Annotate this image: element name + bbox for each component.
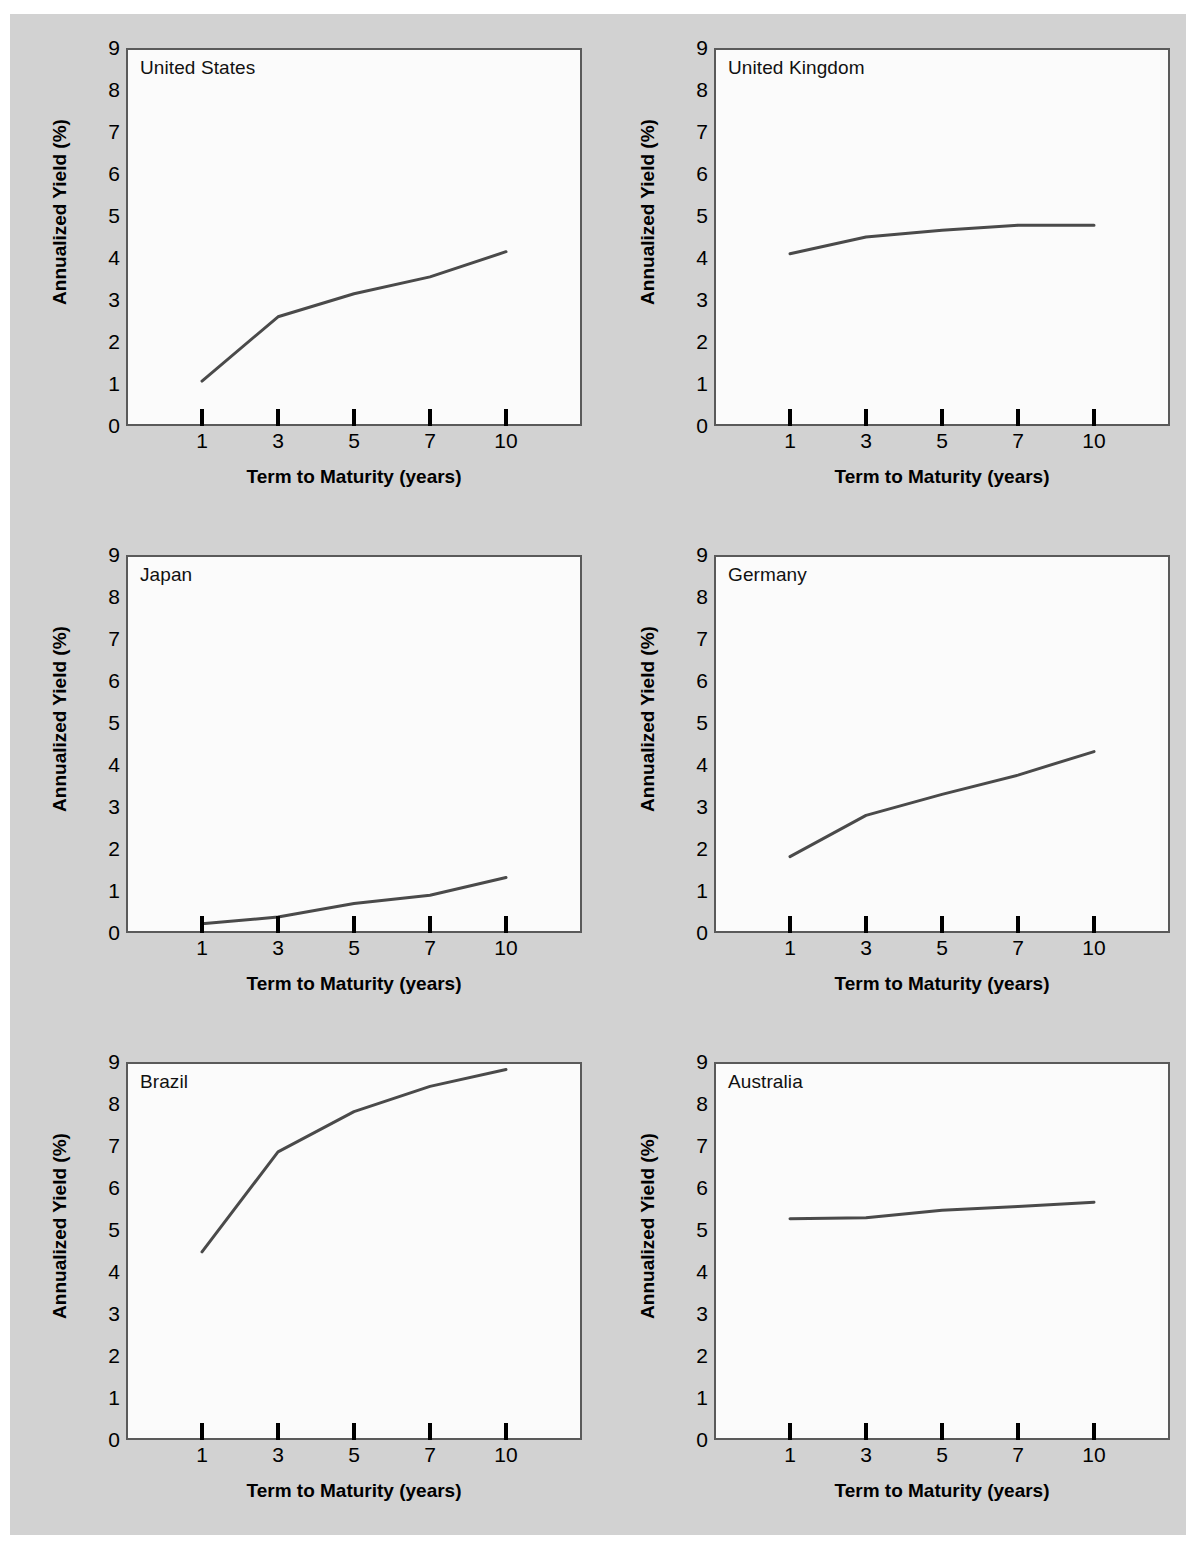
y-tick-label: 8 [86,1092,120,1116]
y-tick-label: 0 [674,921,708,945]
x-tick-label: 3 [272,429,284,453]
y-tick-labels: 0123456789 [660,1062,708,1440]
x-tick-label: 10 [1082,936,1105,960]
chart-panel-united-states: Annualized Yield (%)0123456789United Sta… [10,14,598,521]
x-tick-labels: 135710 [714,936,1170,966]
y-tick-label: 2 [86,837,120,861]
x-tick-label: 3 [860,936,872,960]
x-tick-label: 5 [936,936,948,960]
x-tick-marks [714,48,1170,426]
y-tick-label: 3 [674,795,708,819]
y-tick-label: 3 [86,288,120,312]
x-tick-mark [1092,409,1096,426]
x-tick-mark [864,1423,868,1440]
x-tick-label: 3 [272,1443,284,1467]
x-tick-mark [352,1423,356,1440]
x-tick-mark [276,916,280,933]
x-tick-mark [940,409,944,426]
y-tick-label: 2 [674,837,708,861]
x-axis-label: Term to Maturity (years) [714,1480,1170,1502]
x-tick-mark [428,916,432,933]
x-tick-label: 10 [494,1443,517,1467]
x-tick-label: 1 [196,429,208,453]
y-tick-label: 5 [86,1218,120,1242]
y-tick-label: 6 [86,162,120,186]
y-tick-label: 9 [86,1050,120,1074]
y-tick-label: 5 [674,711,708,735]
y-tick-label: 4 [674,1260,708,1284]
y-tick-label: 8 [674,1092,708,1116]
x-tick-label: 7 [1012,1443,1024,1467]
x-tick-mark [200,409,204,426]
y-tick-label: 0 [86,1428,120,1452]
y-tick-label: 7 [674,627,708,651]
y-tick-label: 2 [86,330,120,354]
x-tick-marks [714,1062,1170,1440]
x-tick-mark [864,409,868,426]
x-tick-label: 1 [784,429,796,453]
y-tick-label: 3 [674,288,708,312]
y-axis-label-text: Annualized Yield (%) [637,1133,659,1319]
x-tick-label: 7 [424,429,436,453]
x-tick-mark [276,409,280,426]
x-tick-mark [940,916,944,933]
x-axis-label: Term to Maturity (years) [126,973,582,995]
chart-panel-australia: Annualized Yield (%)0123456789Australia1… [598,1028,1186,1535]
x-tick-label: 1 [196,1443,208,1467]
x-tick-label: 10 [1082,1443,1105,1467]
x-tick-mark [788,1423,792,1440]
figure-canvas: Annualized Yield (%)0123456789United Sta… [0,0,1196,1553]
x-tick-labels: 135710 [126,1443,582,1473]
y-tick-label: 9 [86,543,120,567]
y-tick-label: 7 [86,627,120,651]
y-axis-label-text: Annualized Yield (%) [637,626,659,812]
x-tick-marks [126,555,582,933]
y-tick-label: 1 [86,372,120,396]
x-tick-label: 7 [1012,429,1024,453]
y-axis-label: Annualized Yield (%) [636,521,660,916]
x-tick-mark [428,409,432,426]
x-tick-marks [126,48,582,426]
y-tick-label: 7 [674,1134,708,1158]
x-tick-mark [788,409,792,426]
x-tick-labels: 135710 [714,1443,1170,1473]
x-tick-label: 1 [196,936,208,960]
x-tick-label: 5 [348,429,360,453]
x-tick-mark [864,916,868,933]
y-tick-label: 7 [86,1134,120,1158]
x-tick-label: 3 [860,1443,872,1467]
y-tick-label: 6 [674,669,708,693]
y-tick-label: 2 [674,1344,708,1368]
x-axis-label: Term to Maturity (years) [126,466,582,488]
x-tick-mark [428,1423,432,1440]
y-tick-label: 0 [86,414,120,438]
y-tick-label: 9 [674,543,708,567]
y-tick-label: 5 [674,1218,708,1242]
y-axis-label-text: Annualized Yield (%) [49,626,71,812]
y-tick-label: 1 [674,372,708,396]
x-tick-labels: 135710 [714,429,1170,459]
x-tick-mark [352,916,356,933]
y-tick-label: 5 [674,204,708,228]
y-tick-labels: 0123456789 [660,48,708,426]
y-tick-label: 6 [674,1176,708,1200]
y-tick-label: 3 [86,1302,120,1326]
y-tick-label: 2 [86,1344,120,1368]
x-tick-label: 10 [494,936,517,960]
x-tick-label: 5 [936,429,948,453]
y-tick-labels: 0123456789 [660,555,708,933]
y-tick-labels: 0123456789 [72,555,120,933]
chart-panel-united-kingdom: Annualized Yield (%)0123456789United Kin… [598,14,1186,521]
y-tick-label: 4 [86,246,120,270]
y-tick-label: 3 [86,795,120,819]
chart-panel-japan: Annualized Yield (%)0123456789Japan13571… [10,521,598,1028]
y-tick-label: 1 [674,879,708,903]
y-tick-label: 9 [674,1050,708,1074]
y-tick-label: 0 [86,921,120,945]
x-tick-label: 7 [424,936,436,960]
chart-panel-brazil: Annualized Yield (%)0123456789Brazil1357… [10,1028,598,1535]
panel-grid: Annualized Yield (%)0123456789United Sta… [10,14,1186,1535]
x-tick-mark [504,1423,508,1440]
y-axis-label-text: Annualized Yield (%) [49,119,71,305]
y-tick-label: 3 [674,1302,708,1326]
